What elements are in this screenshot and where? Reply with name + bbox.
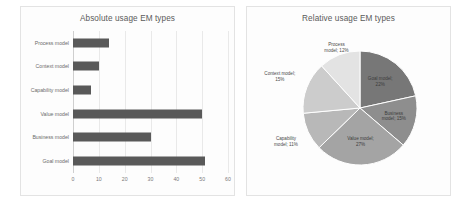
pie-slice-label-line: 27% (347, 142, 373, 148)
pie-slice-label-line: Business (382, 111, 406, 117)
bar-row: Goal model (73, 149, 228, 173)
bar (73, 133, 151, 142)
bar (73, 62, 99, 71)
bar (73, 157, 205, 166)
pie-slice-label-line: Context model; (264, 71, 295, 77)
pie-slice-label: Context model;15% (264, 71, 295, 82)
bar (73, 38, 109, 47)
pie-slice-label-line: model; 12% (324, 48, 348, 54)
pie-slice-label: Businessmodel; 15% (382, 111, 406, 122)
pie-graphic: Goal model;22%Businessmodel; 15%Value mo… (301, 49, 419, 167)
x-axis-tick-label: 20 (122, 176, 128, 182)
x-axis-tick-label: 30 (148, 176, 154, 182)
pie-slice-label-line: 15% (264, 77, 295, 83)
category-axis-label: Value model (41, 111, 69, 117)
pie-slice-label-line: 22% (368, 82, 393, 88)
bar-row: Capability model (73, 78, 228, 102)
bar-row: Business model (73, 126, 228, 150)
bar (73, 109, 202, 118)
pie-slice-label: Value model;27% (347, 136, 373, 147)
x-axis-tick-label: 0 (72, 176, 75, 182)
gridline (228, 31, 229, 173)
pie-slice-label-line: Value model; (347, 136, 373, 142)
bar-chart-title: Absolute usage EM types (21, 14, 234, 23)
category-axis-label: Capability model (31, 87, 69, 93)
bar-row: Context model (73, 55, 228, 79)
pie-plot-area: Goal model;22%Businessmodel; 15%Value mo… (247, 27, 450, 187)
pie-chart-title: Relative usage EM types (247, 14, 450, 23)
pie-slice-label-line: Goal model; (368, 77, 393, 83)
pie-slice-label-line: Capability (274, 136, 298, 142)
pie-slice-label-line: model; 15% (382, 117, 406, 123)
x-axis-tick-label: 40 (173, 176, 179, 182)
pie-slice-label: Goal model;22% (368, 77, 393, 88)
x-axis-tick-label: 50 (199, 176, 205, 182)
category-axis-label: Context model (36, 63, 69, 69)
pie-slice-label-line: model; 11% (274, 142, 298, 148)
bar-row: Process model (73, 31, 228, 55)
x-axis-tick-label: 10 (96, 176, 102, 182)
category-axis-label: Goal model (42, 158, 69, 164)
x-axis-tick-label: 60 (225, 176, 231, 182)
pie-svg (301, 49, 419, 167)
pie-slice-label: Processmodel; 12% (324, 43, 348, 54)
category-axis-label: Business model (32, 134, 69, 140)
bar-row: Value model (73, 102, 228, 126)
bar-plot-area: 0102030405060Process modelContext modelC… (73, 31, 228, 173)
figure-canvas: Absolute usage EM types 0102030405060Pro… (0, 0, 466, 207)
bar-chart-panel: Absolute usage EM types 0102030405060Pro… (20, 6, 235, 196)
category-axis-label: Process model (35, 40, 69, 46)
pie-slice-label: Capabilitymodel; 11% (274, 136, 298, 147)
bar (73, 86, 91, 95)
pie-chart-panel: Relative usage EM types Goal model;22%Bu… (246, 6, 451, 196)
